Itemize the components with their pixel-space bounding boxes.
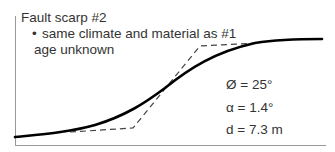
age-text: age unknown <box>34 42 114 58</box>
param-alpha: α = 1.4° <box>226 100 273 116</box>
figure-title: Fault scarp #2 <box>21 10 107 26</box>
param-friction-angle: Ø = 25° <box>226 77 272 93</box>
bullet-text: same climate and material as #1 <box>42 26 236 41</box>
bullet-line: •same climate and material as #1 <box>32 26 236 42</box>
param-offset-d: d = 7.3 m <box>226 122 283 138</box>
bullet-marker: • <box>32 26 42 42</box>
